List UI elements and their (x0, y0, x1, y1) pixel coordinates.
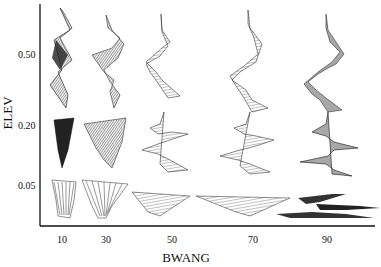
axes (40, 4, 375, 226)
x-tick-50: 50 (167, 234, 177, 245)
panel-elev020-bwang50 (142, 112, 188, 172)
panel-elev005-bwang70 (196, 196, 290, 216)
panel-elev005-bwang50 (132, 192, 190, 216)
panel-elev050-bwang90 (304, 14, 344, 112)
panel-elev050-bwang50 (146, 14, 180, 98)
panel-elev005-bwang10 (52, 180, 76, 218)
panel-elev050-bwang10 (50, 8, 72, 108)
panel-elev020-bwang90 (300, 112, 358, 176)
panel-elev050-bwang70 (230, 10, 268, 112)
panel-elev020-bwang30 (84, 118, 126, 168)
figure: 0.50 0.20 0.05 ELEV 10 30 50 70 90 BWANG (0, 0, 381, 267)
panel-elev020-bwang70 (220, 112, 274, 174)
panel-elev050-bwang30 (92, 15, 124, 108)
x-tick-70: 70 (248, 234, 258, 245)
x-axis-label: BWANG (162, 250, 210, 265)
y-tick-0.50: 0.50 (18, 49, 36, 60)
x-tick-30: 30 (101, 234, 111, 245)
y-tick-0.05: 0.05 (18, 180, 36, 191)
y-tick-0.20: 0.20 (18, 120, 36, 131)
y-axis-label: ELEV (0, 96, 15, 130)
panel-elev005-bwang90 (276, 194, 380, 218)
panel-elev020-bwang10 (54, 118, 74, 168)
x-tick-10: 10 (57, 234, 67, 245)
panel-elev005-bwang30 (82, 180, 128, 218)
x-tick-90: 90 (322, 234, 332, 245)
